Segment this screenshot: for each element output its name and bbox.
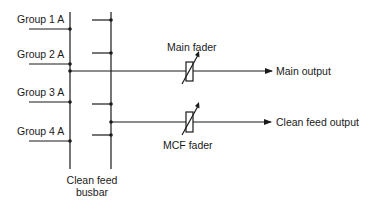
- group-1-label: Group 1 A: [17, 13, 64, 25]
- main-output-label: Main output: [276, 65, 331, 77]
- junction-dot: [68, 100, 72, 104]
- mcf-fader-icon: [182, 102, 200, 135]
- main-fader-label: Main fader: [167, 41, 217, 53]
- clean-feed-output-label: Clean feed output: [276, 116, 359, 128]
- junction-dot: [68, 139, 72, 143]
- group-2-label: Group 2 A: [17, 48, 64, 60]
- junction-dot: [109, 133, 113, 137]
- group-4-label: Group 4 A: [17, 125, 64, 137]
- main-fader-icon: [182, 51, 200, 84]
- junction-dot: [68, 62, 72, 66]
- busbar-label-line-2: busbar: [76, 186, 109, 198]
- group-3-label: Group 3 A: [17, 86, 64, 98]
- junction-dot: [109, 18, 113, 22]
- junction-dot: [109, 51, 113, 55]
- clean-feed-diagram: Group 1 A Group 2 A Group 3 A Group 4 A …: [0, 0, 371, 206]
- junction-dot: [68, 27, 72, 31]
- busbar-label-line-1: Clean feed: [67, 174, 118, 186]
- mcf-fader-label: MCF fader: [163, 139, 213, 151]
- junction-dot: [109, 102, 113, 106]
